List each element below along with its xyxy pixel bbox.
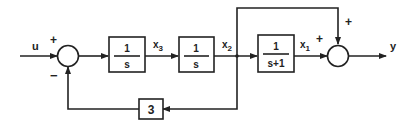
sum1-minus-sign: −: [50, 68, 58, 83]
integrator-2-denominator: s: [193, 59, 199, 70]
sum1-plus-sign: +: [50, 33, 57, 47]
first-order-lag-numerator: 1: [273, 41, 279, 52]
x1-label: x1: [300, 39, 311, 53]
sum2-plus-sign-left: +: [316, 32, 323, 46]
block-diagram: u + − 1 s x3 1 s x2 1 s+1 x1 + + y 3: [0, 0, 413, 130]
x3-label: x3: [153, 39, 164, 53]
output-label: y: [390, 40, 397, 52]
first-order-lag-denominator: s+1: [268, 58, 285, 69]
x2-label: x2: [222, 39, 233, 53]
feedback-gain-value: 3: [148, 103, 155, 117]
summing-junction-1: [58, 46, 79, 67]
feedback-line-to-sum1: [68, 67, 139, 109]
integrator-1-numerator: 1: [124, 43, 130, 54]
integrator-2-numerator: 1: [193, 43, 199, 54]
summing-junction-2: [328, 46, 349, 67]
sum2-plus-sign-top: +: [345, 15, 352, 29]
integrator-1-denominator: s: [124, 59, 130, 70]
input-label: u: [32, 40, 39, 52]
